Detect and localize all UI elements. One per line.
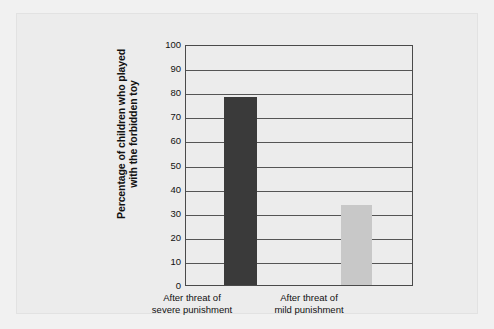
y-axis-label-line2: with the forbidden toy <box>127 19 140 249</box>
bar-mild-punishment <box>341 205 372 285</box>
x-tick-mild-line2: mild punishment <box>239 304 379 316</box>
gridline-30 <box>186 215 412 216</box>
x-tick-mild-line1: After threat of <box>280 292 338 303</box>
gridline-60 <box>186 142 412 143</box>
y-axis-ticks: 100 90 80 70 60 50 40 30 20 10 0 <box>155 45 181 286</box>
chart-figure: Percentage of children who played with t… <box>0 0 494 329</box>
y-tick-70: 70 <box>155 112 181 122</box>
gridline-50 <box>186 167 412 168</box>
y-tick-80: 80 <box>155 88 181 98</box>
plot-area <box>185 45 413 286</box>
y-axis-label: Percentage of children who played with t… <box>107 19 147 249</box>
y-tick-60: 60 <box>155 136 181 146</box>
y-axis-label-line1: Percentage of children who played <box>115 49 127 219</box>
y-tick-50: 50 <box>155 161 181 171</box>
gridline-90 <box>186 70 412 71</box>
y-tick-0: 0 <box>155 281 181 291</box>
x-tick-mild-punishment: After threat of mild punishment <box>239 292 379 316</box>
x-tick-severe-line1: After threat of <box>163 292 221 303</box>
y-tick-90: 90 <box>155 64 181 74</box>
y-tick-20: 20 <box>155 233 181 243</box>
gridline-70 <box>186 118 412 119</box>
y-tick-100: 100 <box>155 40 181 50</box>
bar-severe-punishment <box>224 97 257 285</box>
gridline-40 <box>186 191 412 192</box>
figure-frame: Percentage of children who played with t… <box>17 14 477 313</box>
y-tick-40: 40 <box>155 185 181 195</box>
y-tick-30: 30 <box>155 209 181 219</box>
gridline-20 <box>186 239 412 240</box>
gridline-10 <box>186 263 412 264</box>
y-tick-10: 10 <box>155 257 181 267</box>
gridline-80 <box>186 94 412 95</box>
